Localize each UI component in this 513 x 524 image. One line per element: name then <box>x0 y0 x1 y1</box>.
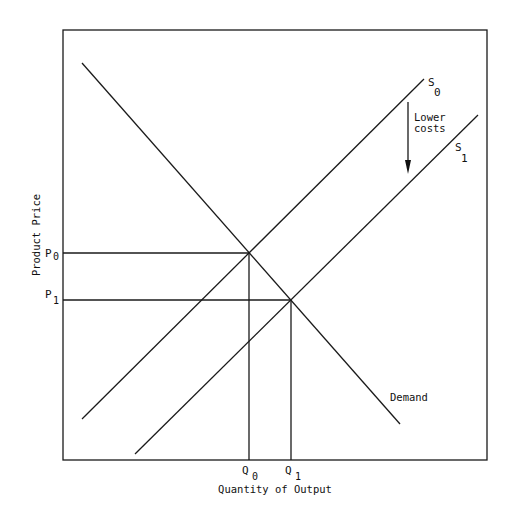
supply-curve-s1 <box>135 115 478 454</box>
p0-label: P <box>45 247 52 260</box>
demand-curve <box>82 63 400 424</box>
s1-subscript: 1 <box>461 152 468 165</box>
demand-label: Demand <box>390 391 428 403</box>
p0-subscript: 0 <box>53 251 59 262</box>
q1-label: Q <box>285 464 292 477</box>
x-axis-title: Quantity of Output <box>218 483 332 495</box>
q0-subscript: 0 <box>252 471 258 482</box>
arrow-down-icon <box>405 160 411 174</box>
q1-subscript: 1 <box>295 471 301 482</box>
y-axis-title: Product Price <box>30 194 42 276</box>
p1-label: P <box>45 288 52 301</box>
supply-demand-diagram: S 0 S 1 Lower costs Demand P 0 P 1 Q 0 Q… <box>0 0 513 524</box>
supply-curve-s0 <box>82 79 424 419</box>
p1-subscript: 1 <box>53 295 59 306</box>
shift-annotation-line2: costs <box>414 122 446 134</box>
s0-subscript: 0 <box>434 86 441 99</box>
q0-label: Q <box>242 464 249 477</box>
